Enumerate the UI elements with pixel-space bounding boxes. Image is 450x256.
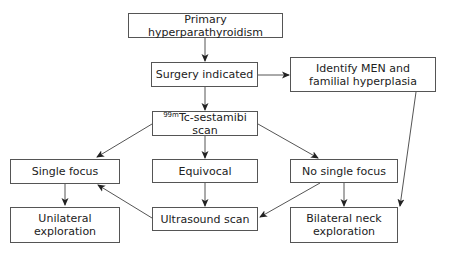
- node-surgery-indicated: Surgery indicated: [151, 62, 258, 87]
- node-label-line2: familial hyperplasia: [309, 75, 417, 88]
- arrow-scan-nosingle: [258, 124, 318, 158]
- node-label: Ultrasound scan: [160, 213, 249, 226]
- node-label: Surgery indicated: [156, 68, 253, 81]
- node-bilateral-neck-exploration: Bilateral neck exploration: [290, 207, 398, 243]
- arrow-identify-bilateral: [400, 92, 416, 206]
- scan-label-text: Tc-sestamibi scan: [179, 111, 247, 137]
- isotope-superscript: 99m: [163, 111, 179, 119]
- node-label-line1: Identify MEN and: [316, 62, 410, 75]
- node-sestamibi-scan: 99mTc-sestamibi scan: [152, 111, 258, 136]
- arrow-scan-single: [97, 124, 152, 157]
- node-ultrasound-scan: Ultrasound scan: [152, 207, 258, 231]
- node-identify-men: Identify MEN and familial hyperplasia: [290, 57, 436, 92]
- node-equivocal: Equivocal: [152, 159, 258, 183]
- node-unilateral-exploration: Unilateral exploration: [10, 207, 120, 243]
- node-label: Single focus: [32, 165, 99, 178]
- node-label: No single focus: [302, 165, 386, 178]
- node-single-focus: Single focus: [10, 159, 120, 184]
- node-label: Equivocal: [178, 165, 231, 178]
- node-label: 99mTc-sestamibi scan: [153, 111, 257, 137]
- node-label: Primary hyperparathyroidism: [129, 13, 282, 39]
- node-label-line1: Bilateral neck: [306, 212, 381, 225]
- node-primary-hyperparathyroidism: Primary hyperparathyroidism: [128, 13, 283, 38]
- node-no-single-focus: No single focus: [290, 159, 398, 183]
- node-label-line2: exploration: [34, 225, 96, 238]
- node-label-line2: exploration: [313, 225, 375, 238]
- node-label-line1: Unilateral: [38, 212, 91, 225]
